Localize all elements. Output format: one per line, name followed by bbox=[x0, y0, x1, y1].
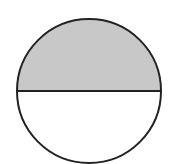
fraction-circle-diagram bbox=[0, 0, 175, 164]
unshaded-bottom-half bbox=[17, 91, 161, 163]
shaded-top-half bbox=[17, 19, 161, 91]
